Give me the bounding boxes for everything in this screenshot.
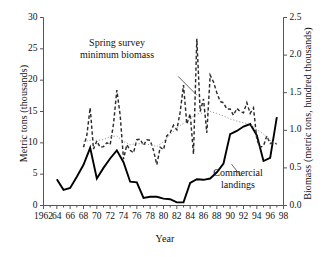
spring-survey-annotation-line2: minimum biomass	[62, 49, 172, 61]
y2-axis-tick-label: 0.0	[290, 200, 302, 210]
y2-axis-tick-label: 2.5	[290, 12, 302, 22]
y-axis-tick-label: 5	[4, 168, 38, 178]
y-axis-tick-label: 15	[4, 106, 38, 116]
y2-axis-tick-label: 2.0	[290, 49, 302, 59]
x-axis-title: Year	[120, 233, 210, 244]
spring-survey-annotation-line1: Spring survey	[62, 37, 172, 49]
y-axis-tick-label: 30	[4, 12, 38, 22]
y2-axis-tick-label: 1.0	[290, 124, 302, 134]
y-axis-tick-label: 10	[4, 137, 38, 147]
y-axis-tick-label: 25	[4, 43, 38, 53]
series-smoothed-trend	[84, 112, 277, 147]
x-axis-tick-label: 98	[264, 211, 304, 221]
y2-axis-tick-label: 0.5	[290, 162, 302, 172]
spring-survey-annotation: Spring survey minimum biomass	[62, 37, 172, 60]
spring-survey-annotation-leader	[178, 76, 197, 95]
chart-figure: Metric tons (thousands) Biomass (metric …	[0, 0, 331, 257]
y-axis-tick-label: 20	[4, 74, 38, 84]
y-axis-tick-label: 0	[4, 200, 38, 210]
commercial-landings-annotation: Commercial landings	[196, 167, 280, 190]
y2-axis-tick-label: 1.5	[290, 87, 302, 97]
commercial-landings-annotation-line1: Commercial	[196, 167, 280, 179]
y-axis-right-title: Biomass (metric tons, hundred thousands)	[302, 14, 313, 214]
commercial-landings-annotation-line2: landings	[196, 179, 280, 191]
